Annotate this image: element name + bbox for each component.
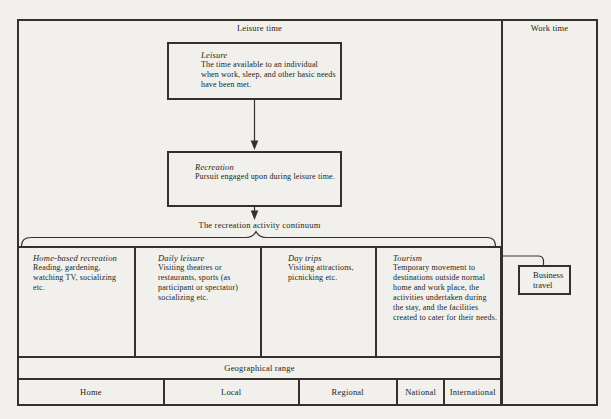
work-time-label: Work time bbox=[501, 23, 598, 33]
activity-columns: Home-based recreation Reading, gardening… bbox=[17, 246, 502, 358]
column-title: Day trips bbox=[288, 253, 370, 263]
column-title: Home-based recreation bbox=[33, 253, 129, 263]
leisure-time-label: Leisure time bbox=[17, 23, 502, 33]
column-body: Temporary movement to destinations outsi… bbox=[393, 263, 498, 323]
column-day-trips: Day trips Visiting attractions, picnicki… bbox=[260, 248, 375, 356]
leisure-body: The time available to an individual when… bbox=[201, 60, 337, 90]
recreation-body: Pursuit engaged upon during leisure time… bbox=[195, 172, 337, 182]
scale-cell-international: International bbox=[443, 380, 500, 404]
scale-cell-regional: Regional bbox=[298, 380, 396, 404]
column-title: Daily leisure bbox=[158, 253, 254, 263]
business-travel-box: Business travel bbox=[518, 265, 571, 295]
geographical-range-row: Geographical range bbox=[17, 356, 502, 380]
column-home-based-recreation: Home-based recreation Reading, gardening… bbox=[19, 248, 134, 356]
leisure-definition-box: Leisure The time available to an individ… bbox=[167, 42, 342, 100]
recreation-definition-box: Recreation Pursuit engaged upon during l… bbox=[167, 151, 342, 207]
business-travel-label: Business travel bbox=[533, 270, 563, 290]
column-tourism: Tourism Temporary movement to destinatio… bbox=[375, 248, 500, 356]
geo-scale-row: Home Local Regional National Internation… bbox=[17, 378, 502, 406]
leisure-title: Leisure bbox=[201, 50, 337, 60]
column-body: Reading, gardening, watching TV, sociali… bbox=[33, 263, 129, 293]
column-body: Visiting theatres or restaurants, sports… bbox=[158, 263, 254, 303]
scale-cell-national: National bbox=[396, 380, 444, 404]
recreation-title: Recreation bbox=[195, 162, 337, 172]
column-body: Visiting attractions, picnicking etc. bbox=[288, 263, 370, 283]
geographical-range-label: Geographical range bbox=[224, 363, 294, 373]
scale-cell-home: Home bbox=[19, 380, 163, 404]
column-title: Tourism bbox=[393, 253, 498, 263]
continuum-label: The recreation activity continuum bbox=[17, 220, 502, 230]
scale-cell-local: Local bbox=[163, 380, 298, 404]
leisure-tourism-diagram: Leisure time Work time Leisure The time … bbox=[0, 0, 611, 419]
column-daily-leisure: Daily leisure Visiting theatres or resta… bbox=[134, 248, 260, 356]
